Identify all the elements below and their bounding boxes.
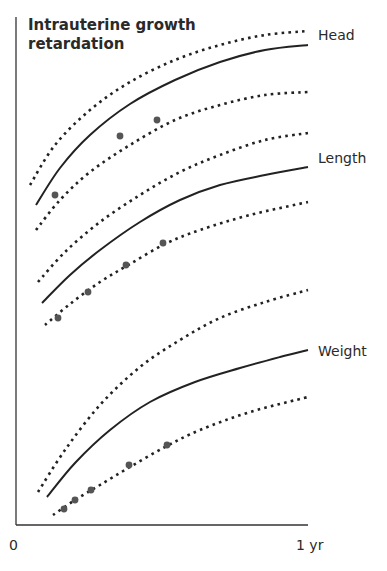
weight-data-point bbox=[72, 497, 79, 504]
series-label-head: Head bbox=[318, 27, 355, 43]
x-tick-end: 1 yr bbox=[296, 537, 323, 553]
series-weight bbox=[38, 290, 308, 515]
weight-data-point bbox=[88, 487, 95, 494]
weight-data-point bbox=[126, 462, 133, 469]
head-lower-curve bbox=[36, 92, 308, 230]
series-label-weight: Weight bbox=[318, 343, 367, 359]
chart-title-line2: retardation bbox=[28, 35, 196, 54]
chart-title: Intrauterine growth retardation bbox=[28, 16, 196, 54]
series-layer bbox=[30, 31, 308, 515]
length-data-point bbox=[85, 289, 92, 296]
head-upper-curve bbox=[30, 31, 308, 185]
length-data-point bbox=[123, 262, 130, 269]
head-center-curve bbox=[36, 45, 308, 205]
weight-lower-curve bbox=[53, 397, 308, 515]
series-length bbox=[38, 133, 308, 325]
growth-chart bbox=[0, 0, 387, 571]
head-data-point bbox=[117, 133, 124, 140]
series-head bbox=[30, 31, 308, 230]
x-tick-start: 0 bbox=[9, 537, 18, 553]
series-label-length: Length bbox=[318, 150, 366, 166]
weight-data-point bbox=[164, 442, 171, 449]
length-data-point bbox=[55, 315, 62, 322]
length-upper-curve bbox=[38, 133, 308, 282]
chart-title-line1: Intrauterine growth bbox=[28, 16, 196, 35]
head-data-point bbox=[154, 117, 161, 124]
length-center-curve bbox=[42, 167, 308, 303]
length-data-point bbox=[160, 240, 167, 247]
weight-data-point bbox=[61, 506, 68, 513]
head-data-point bbox=[52, 192, 59, 199]
